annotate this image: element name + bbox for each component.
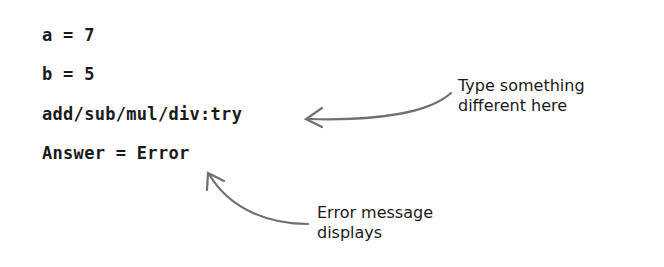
error-arrow-icon	[207, 173, 308, 224]
prompt-arrow-icon	[306, 93, 451, 127]
annotation-arrows	[0, 0, 664, 267]
